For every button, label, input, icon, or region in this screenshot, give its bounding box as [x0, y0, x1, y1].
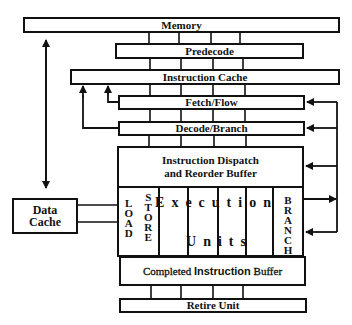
retire-unit-label: Retire Unit — [187, 300, 240, 311]
dispatch-label-line2: and Reorder Buffer — [164, 167, 257, 180]
load-label: LOAD — [124, 198, 133, 238]
vertical-letter: E — [145, 232, 152, 242]
completed-instruction-buffer: Completed Instruction Buffer — [119, 256, 306, 286]
fetch-flow-label: Fetch/Flow — [185, 97, 238, 108]
decode-branch-block: Decode/Branch — [118, 121, 305, 136]
completed-label-mid: Instruction — [194, 266, 251, 277]
predecode-block: Predecode — [115, 43, 304, 59]
fetch-flow-block: Fetch/Flow — [118, 95, 305, 110]
vertical-letter: D — [125, 228, 133, 238]
store-label: STORE — [144, 192, 153, 242]
vertical-letter: H — [284, 245, 293, 255]
branch-unit: BRANCH — [272, 186, 304, 257]
decode-branch-label: Decode/Branch — [175, 123, 247, 134]
memory-block: Memory — [23, 17, 340, 33]
instruction-dispatch-block: Instruction Dispatch and Reorder Buffer — [117, 146, 304, 188]
instruction-cache-label: Instruction Cache — [163, 72, 248, 83]
completed-label-pre: Completed — [143, 266, 194, 277]
dispatch-label-line1: Instruction Dispatch — [162, 154, 259, 167]
execution-label-line2: Units — [180, 234, 253, 250]
completed-label-post: Buffer — [251, 266, 282, 277]
load-store-unit: LOAD STORE — [117, 186, 160, 257]
execution-label-line1: Execution — [155, 195, 278, 211]
retire-unit-block: Retire Unit — [119, 298, 307, 313]
instruction-cache-block: Instruction Cache — [70, 69, 340, 85]
branch-label: BRANCH — [284, 195, 293, 255]
data-cache-block: Data Cache — [12, 198, 78, 234]
predecode-label: Predecode — [185, 46, 234, 57]
pipeline-diagram: Memory Predecode Instruction Cache Fetch… — [0, 0, 352, 325]
execution-units-label: Execution Units — [160, 195, 273, 250]
memory-label: Memory — [161, 20, 201, 31]
data-cache-label-line2: Cache — [29, 216, 61, 228]
